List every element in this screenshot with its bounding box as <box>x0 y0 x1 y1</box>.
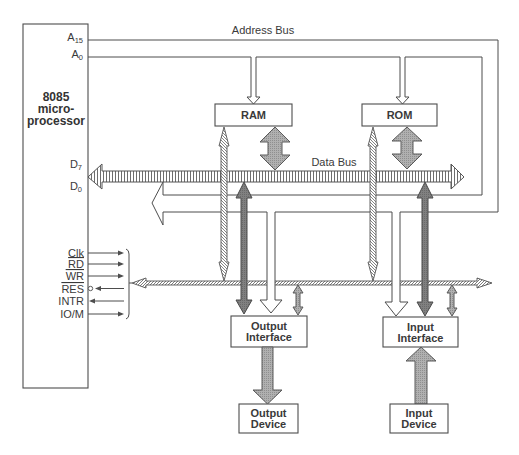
ram-block: RAM <box>215 104 292 126</box>
signal-wr: WR <box>66 270 124 282</box>
output-device-block: Output Device <box>239 404 298 433</box>
output-device-arrow <box>253 347 282 404</box>
input-device-block: Input Device <box>390 404 448 433</box>
microprocessor-system-diagram: 8085 micro- processor A15 A0 D7 D0 Addre… <box>0 0 519 455</box>
signal-label-io-m: IO/M <box>60 308 84 320</box>
signal-res: RES <box>61 283 124 295</box>
arrow-right-icon <box>118 274 124 279</box>
input-interface-block: Input Interface <box>383 317 458 347</box>
rom-label: ROM <box>387 109 413 121</box>
output-interface-label-line2: Interface <box>246 331 292 343</box>
signal-label-intr: INTR <box>58 295 84 307</box>
signal-label-rd: RD <box>68 258 84 270</box>
ram-label: RAM <box>241 109 266 121</box>
rom-block: ROM <box>362 104 437 126</box>
signal-label-wr: WR <box>66 270 84 282</box>
data-arrow-input-interface <box>417 182 433 316</box>
address-line-ram-rom <box>256 57 400 97</box>
arrow-right-icon <box>118 251 124 256</box>
control-arrow-ram <box>219 127 229 281</box>
inversion-bubble-icon <box>88 286 92 290</box>
address-arrow-output-fill <box>260 212 282 313</box>
pin-d0-sub: 0 <box>78 185 82 194</box>
output-device-label-line2: Device <box>251 418 286 430</box>
pin-d7-sub: 7 <box>78 163 82 172</box>
control-arrow-output-interface <box>293 285 303 315</box>
arrow-left-icon <box>95 286 101 291</box>
pin-d0-base: D <box>70 180 78 192</box>
arrowhead-address-ram <box>247 97 260 104</box>
arrow-left-icon <box>89 299 95 304</box>
control-arrow-rom <box>368 127 378 281</box>
data-arrow-rom <box>392 127 422 169</box>
signal-intr: INTR <box>58 295 124 307</box>
processor-label-line3: processor <box>27 114 85 128</box>
arrow-right-icon <box>118 312 124 317</box>
address-arrow-input-fill <box>385 212 408 316</box>
signal-rd: RD <box>68 258 124 270</box>
data-arrow-output-interface <box>236 182 252 314</box>
control-arrow-input-interface <box>447 285 457 316</box>
data-bus-label: Data Bus <box>311 156 357 168</box>
address-line-a0 <box>88 57 251 97</box>
output-interface-block: Output Interface <box>231 316 307 347</box>
pin-a15-sub: 15 <box>75 36 83 45</box>
processor-box <box>23 24 88 388</box>
input-interface-label-line2: Interface <box>398 332 444 344</box>
arrowhead-address-io <box>152 182 267 225</box>
signal-io-m: IO/M <box>60 308 124 320</box>
input-device-arrow <box>406 347 436 404</box>
address-bus-label: Address Bus <box>232 24 295 36</box>
control-bus-arrow <box>132 278 492 288</box>
arrow-right-icon <box>118 262 124 267</box>
data-arrow-ram <box>260 127 290 170</box>
arrowhead-address-rom <box>396 97 409 104</box>
pin-d7-base: D <box>70 158 78 170</box>
processor-block: 8085 micro- processor A15 A0 D7 D0 <box>23 24 88 388</box>
signal-label-res: RES <box>61 283 84 295</box>
pin-a0-sub: 0 <box>79 53 83 62</box>
control-signal-bracket <box>126 249 129 319</box>
input-device-label-line2: Device <box>401 418 436 430</box>
address-to-interfaces <box>260 212 408 316</box>
